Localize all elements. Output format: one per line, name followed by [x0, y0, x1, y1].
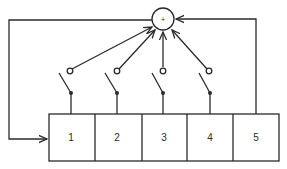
switch-lever [152, 73, 163, 93]
switch-lever [105, 73, 117, 93]
switch-terminal-icon [114, 68, 120, 74]
switch-3[interactable] [152, 68, 166, 114]
shift-register: 1 2 3 4 5 [49, 114, 279, 161]
switch-4[interactable] [199, 68, 212, 114]
switch-2[interactable] [105, 68, 120, 114]
tap-line-2 [119, 30, 155, 69]
block-label-4: 4 [207, 132, 213, 143]
block-label-2: 2 [114, 132, 120, 143]
block-label-3: 3 [161, 132, 167, 143]
switch-lever [59, 73, 71, 93]
summing-junction: + [152, 8, 174, 30]
plus-sign: + [161, 16, 165, 23]
switch-terminal-icon [67, 68, 73, 74]
block-label-1: 1 [68, 132, 74, 143]
tap-line-4 [172, 30, 207, 69]
switch-terminal-icon [206, 68, 212, 74]
block-label-5: 5 [253, 132, 259, 143]
feedback-shift-register-diagram: + 1 2 3 4 [0, 0, 287, 169]
switch-1[interactable] [59, 68, 73, 114]
switch-lever [199, 73, 210, 93]
switch-terminal-icon [160, 68, 166, 74]
tap-line-1 [72, 27, 152, 69]
stage5-feedback-line [176, 19, 256, 114]
